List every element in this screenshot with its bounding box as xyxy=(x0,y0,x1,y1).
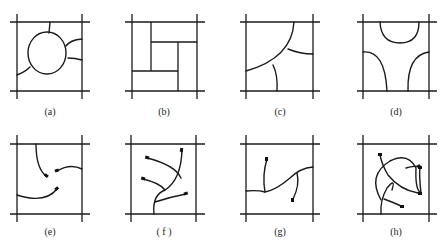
panel-label-g: (g) xyxy=(274,226,286,237)
panel-b xyxy=(125,14,205,99)
panel-label-c: (c) xyxy=(274,106,285,117)
panel-h xyxy=(357,135,437,222)
panel-label-f: ( f ) xyxy=(157,226,172,237)
panel-f xyxy=(125,135,205,222)
diagram-canvas xyxy=(0,0,442,246)
panel-label-e: (e) xyxy=(44,226,55,237)
panel-e xyxy=(10,135,90,222)
panel-label-b: (b) xyxy=(158,106,170,117)
panel-c xyxy=(240,14,320,99)
panel-label-h: (h) xyxy=(390,226,402,237)
panel-a xyxy=(10,14,90,99)
panel-d xyxy=(357,14,437,99)
panel-label-d: (d) xyxy=(390,106,402,117)
panel-g xyxy=(240,135,320,222)
panel-label-a: (a) xyxy=(44,106,55,117)
